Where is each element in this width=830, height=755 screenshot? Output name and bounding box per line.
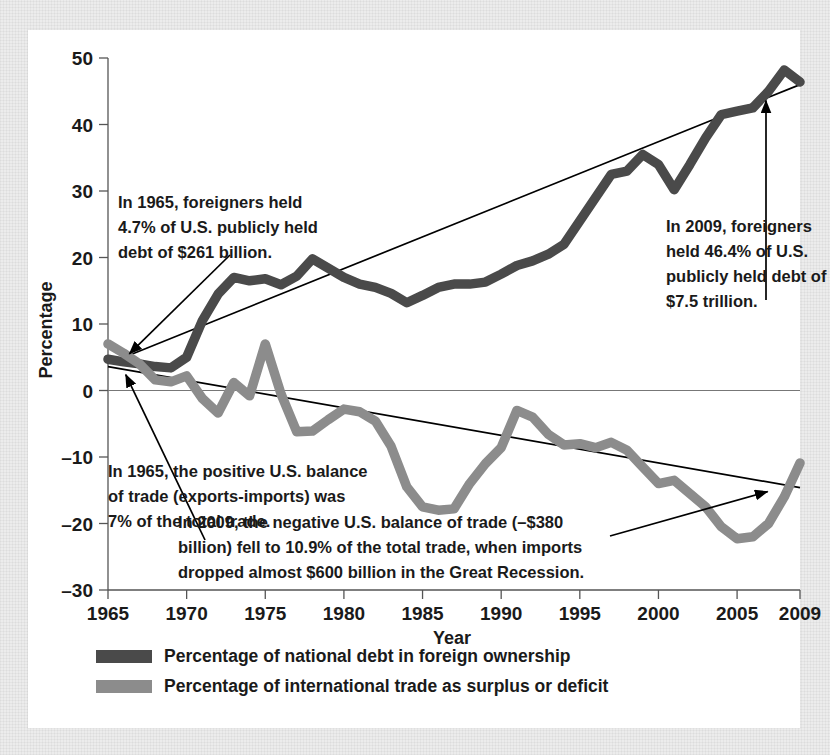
x-tick-label: 1980 (323, 603, 365, 624)
annotation-line: $7.5 trillion. (666, 292, 758, 310)
annotation-line: 4.7% of U.S. publicly held (118, 218, 318, 236)
y-tick-label: 0 (82, 381, 93, 402)
annotation-line: debt of $261 billion. (118, 243, 272, 261)
legend-label: Percentage of national debt in foreign o… (164, 646, 570, 666)
annotation-line: In 1965, foreigners held (118, 193, 302, 211)
x-tick-label: 1985 (401, 603, 444, 624)
chart-figure: 50403020100–10–20–30 1965197019751980198… (0, 0, 830, 755)
legend-item-0: Percentage of national debt in foreign o… (96, 646, 570, 666)
y-tick-label: 10 (72, 314, 93, 335)
x-tick-label: 2009 (779, 603, 821, 624)
annotation-line: dropped almost $600 billion in the Great… (178, 563, 584, 581)
y-tick-label: 40 (72, 115, 93, 136)
annotation-line: In 2009, foreigners (666, 217, 812, 235)
anno-1965-debt: In 1965, foreigners held4.7% of U.S. pub… (118, 193, 318, 261)
annotation-line: publicly held debt of (666, 267, 827, 285)
annotation-line: held 46.4% of U.S. (666, 242, 808, 260)
legend-label: Percentage of international trade as sur… (164, 676, 609, 696)
y-tick-label: 20 (72, 248, 93, 269)
x-tick-label: 1995 (559, 603, 602, 624)
annotation-line: of trade (exports-imports) was (108, 487, 345, 505)
x-tick-label: 1975 (244, 603, 287, 624)
y-tick-label: –10 (61, 447, 93, 468)
y-tick-label: –20 (61, 514, 93, 535)
annotation-line: In 2009, the negative U.S. balance of tr… (178, 513, 563, 531)
x-tick-label: 2005 (716, 603, 759, 624)
y-axis-ticks: 50403020100–10–20–30 (61, 48, 108, 601)
legend-item-1: Percentage of international trade as sur… (96, 676, 609, 696)
x-axis-ticks: 1965197019751980198519901995200020052009 (87, 590, 821, 624)
chart-legend: Percentage of national debt in foreign o… (96, 646, 609, 696)
anno-2009-trade: In 2009, the negative U.S. balance of tr… (178, 513, 584, 581)
legend-swatch (96, 680, 152, 693)
anno-2009-debt: In 2009, foreignersheld 46.4% of U.S.pub… (666, 217, 827, 310)
y-axis-title: Percentage (36, 281, 56, 378)
x-tick-label: 2000 (637, 603, 679, 624)
legend-swatch (96, 650, 152, 663)
x-tick-label: 1965 (87, 603, 130, 624)
x-axis-title: Year (433, 628, 471, 648)
annotation-line: billion) fell to 10.9% of the total trad… (178, 538, 582, 556)
x-tick-label: 1990 (480, 603, 522, 624)
y-tick-label: –30 (61, 580, 93, 601)
y-tick-label: 50 (72, 48, 93, 69)
x-tick-label: 1970 (165, 603, 207, 624)
y-tick-label: 30 (72, 181, 93, 202)
annotation-line: In 1965, the positive U.S. balance (108, 462, 368, 480)
series-line-1 (108, 344, 800, 539)
